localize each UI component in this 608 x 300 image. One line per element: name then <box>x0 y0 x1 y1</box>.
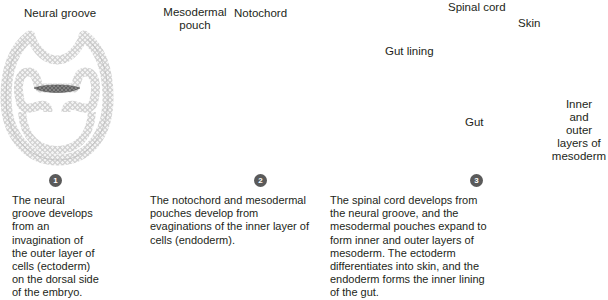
label-spinal-cord: Spinal cord <box>448 1 506 14</box>
stage-1-embryo <box>6 36 108 160</box>
label-inner-outer-mesoderm: Inner and outer layers of mesoderm <box>550 98 608 163</box>
label-mesoderm-line2: and <box>550 111 608 124</box>
label-skin: Skin <box>518 17 540 30</box>
stage-2-badge: 2 <box>254 174 267 187</box>
label-gut: Gut <box>465 116 484 129</box>
label-mesoderm-line3: outer <box>550 124 608 137</box>
stage-2-caption: The notochord and mesodermal pouches dev… <box>150 194 320 247</box>
label-notochord: Notochord <box>234 7 287 20</box>
label-neural-groove: Neural groove <box>24 7 96 20</box>
label-mesodermal-pouch-line1: Mesodermal <box>160 6 230 19</box>
stage-3-badge: 3 <box>470 174 483 187</box>
stage-3-caption: The spinal cord develops from the neural… <box>330 194 492 300</box>
stage-1-caption: The neural groove develops from an invag… <box>12 194 100 300</box>
label-mesoderm-line5: mesoderm <box>550 150 608 163</box>
label-mesodermal-pouch: Mesodermal pouch <box>160 6 230 32</box>
stage-1-badge: 1 <box>49 174 62 187</box>
label-mesoderm-line1: Inner <box>550 98 608 111</box>
label-mesoderm-line4: layers of <box>550 137 608 150</box>
label-gut-lining: Gut lining <box>385 45 434 58</box>
label-mesodermal-pouch-line2: pouch <box>160 19 230 32</box>
